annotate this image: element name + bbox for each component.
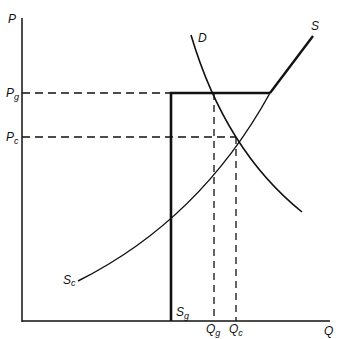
- supply-curve: [78, 93, 270, 281]
- supply-label: S: [311, 19, 319, 33]
- qg-label: Qg: [206, 322, 220, 338]
- demand-label: D: [198, 31, 207, 45]
- supply-curve-upper: [270, 36, 313, 93]
- supply-demand-diagram: P Q Pg Pc Qg Qc D S Sc Sg: [0, 0, 339, 339]
- demand-curve: [191, 35, 302, 212]
- pg-label: Pg: [6, 86, 19, 102]
- sc-label: Sc: [63, 273, 76, 288]
- pc-label: Pc: [6, 130, 19, 146]
- x-axis-label: Q: [324, 324, 333, 338]
- qc-label: Qc: [229, 322, 243, 338]
- y-axis-label: P: [8, 12, 16, 26]
- sg-label: Sg: [176, 305, 189, 321]
- government-supply-curve: [171, 93, 270, 321]
